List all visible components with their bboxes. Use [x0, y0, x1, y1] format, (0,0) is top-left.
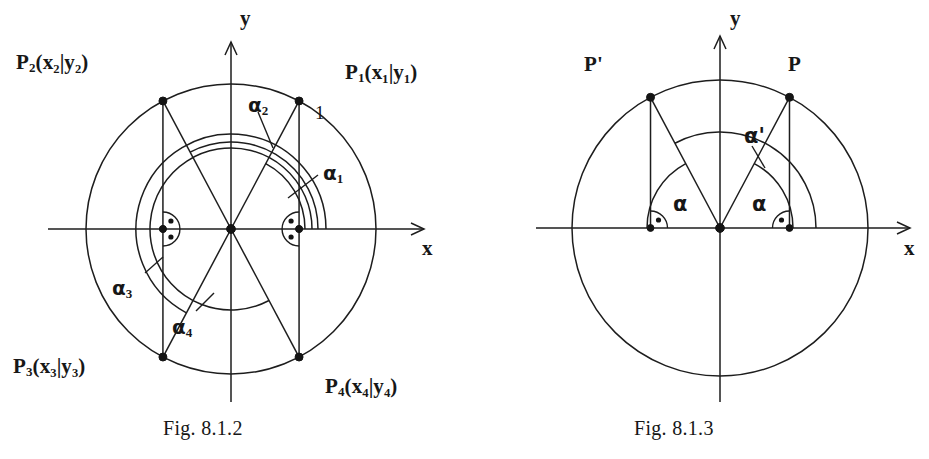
point-marker-p-prime [647, 93, 655, 101]
foot-marker-p-prime [647, 225, 654, 232]
x-axis-label: x [904, 238, 915, 259]
origin-marker [716, 224, 725, 233]
foot-marker-p [786, 225, 793, 232]
right-angle-dot [779, 217, 784, 222]
figure-sheet: P1(x₁|y₁) P2(x₂|y₂) P3(x₃|y₃) P4(x₄|y₄) … [0, 0, 929, 459]
point-marker-p [785, 93, 793, 101]
point-label-p: P [788, 54, 801, 75]
point-label-p-prime: P' [584, 54, 603, 75]
angle-label-alpha-left: α [673, 194, 687, 215]
angle-label-alpha-prime: α' [744, 126, 765, 147]
figure-caption-2: Fig. 8.1.3 [634, 418, 714, 438]
angle-label-alpha-right: α [752, 194, 766, 215]
y-axis-label: y [730, 8, 741, 29]
right-angle-dot [656, 217, 661, 222]
